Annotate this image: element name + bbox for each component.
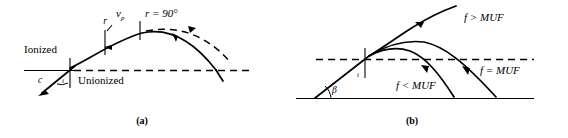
panel-a: r vp r = 90° Ionized Unionized c i (a) xyxy=(0,0,284,138)
solid-ray-arrowhead-right xyxy=(172,33,178,42)
label-ionized: Ionized xyxy=(24,43,57,55)
panel-b: f > MUF f = MUF f < MUF β i (b) xyxy=(284,0,568,138)
figure-root: r vp r = 90° Ionized Unionized c i (a) xyxy=(0,0,568,138)
label-angle-i-a: i xyxy=(62,77,64,85)
dashed-ray-arrowhead xyxy=(188,26,196,33)
label-f-equal-muf: f = MUF xyxy=(480,64,520,76)
label-velocity-vp: vp xyxy=(116,7,125,22)
panel-b-diagram: f > MUF f = MUF f < MUF β i (b) xyxy=(284,0,568,138)
label-f-greater-muf: f > MUF xyxy=(464,11,504,23)
label-beta: β xyxy=(331,85,337,95)
panel-a-diagram: r vp r = 90° Ionized Unionized c i (a) xyxy=(0,0,284,138)
ray-path-solid xyxy=(70,31,216,70)
label-ray-r: r xyxy=(103,16,107,26)
label-velocity-subscript: p xyxy=(120,14,125,22)
caption-panel-a: (a) xyxy=(136,115,148,127)
label-angle-i-b: i xyxy=(357,71,359,79)
ray-path-solid-exit xyxy=(216,70,223,81)
caption-panel-b: (b) xyxy=(406,115,418,127)
ray-path-dashed xyxy=(146,29,230,62)
label-unionized: Unionized xyxy=(78,74,124,86)
label-f-less-muf: f < MUF xyxy=(396,79,436,91)
arrowhead-f-equal xyxy=(462,66,470,75)
label-c: c xyxy=(38,75,43,85)
arrowhead-f-less xyxy=(421,65,429,73)
incident-ray-common xyxy=(315,56,369,98)
tick-r-slant xyxy=(107,25,112,31)
label-r-ninety: r = 90° xyxy=(145,7,178,19)
